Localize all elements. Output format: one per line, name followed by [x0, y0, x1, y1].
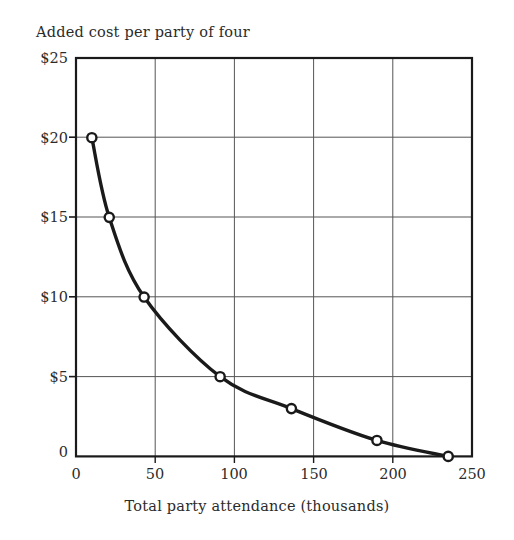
plot-area — [0, 0, 514, 540]
chart-figure: Added cost per party of four $25 $20 $15… — [0, 0, 514, 540]
data-point-2 — [140, 292, 149, 301]
data-point-0 — [87, 133, 96, 142]
grid-lines — [76, 58, 472, 456]
plot-frame — [76, 58, 472, 456]
axis-tick-marks — [69, 137, 393, 463]
data-point-5 — [372, 436, 381, 445]
data-point-6 — [444, 452, 453, 461]
data-point-1 — [105, 213, 114, 222]
data-point-4 — [287, 404, 296, 413]
data-point-3 — [216, 372, 225, 381]
